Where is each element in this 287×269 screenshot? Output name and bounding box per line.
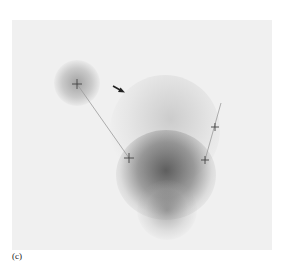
panel-label: (c) xyxy=(12,251,22,261)
crosshair-marker-icon xyxy=(201,156,209,164)
crosshair-marker-icon xyxy=(211,123,219,131)
arrow-icon xyxy=(113,86,125,93)
crosshair-marker-icon xyxy=(124,153,134,163)
connector-line xyxy=(205,103,221,160)
crosshair-marker-icon xyxy=(72,79,82,89)
marker-overlay xyxy=(0,0,287,269)
connector-line xyxy=(77,84,129,158)
